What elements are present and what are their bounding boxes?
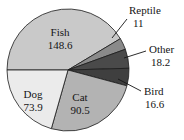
slice-name-fish: Fish [51,26,70,38]
slice-value-fish: 148.6 [48,39,73,51]
slice-name-other: Other [149,43,174,55]
slice-name-reptile: Reptile [129,4,161,16]
slice-name-cat: Cat [72,91,87,103]
pie-chart-figure: Fish148.6Reptile11Other18.2Bird16.6Cat90… [0,0,184,140]
pie-chart-svg: Fish148.6Reptile11Other18.2Bird16.6Cat90… [0,0,184,140]
slice-value-reptile: 11 [133,17,144,29]
slice-value-cat: 90.5 [70,104,90,116]
leader-line-reptile [112,19,127,38]
slice-value-bird: 16.6 [145,98,165,110]
slice-value-dog: 73.9 [23,101,43,113]
slice-name-bird: Bird [144,85,164,97]
slice-name-dog: Dog [24,88,43,100]
slice-value-other: 18.2 [151,56,170,68]
